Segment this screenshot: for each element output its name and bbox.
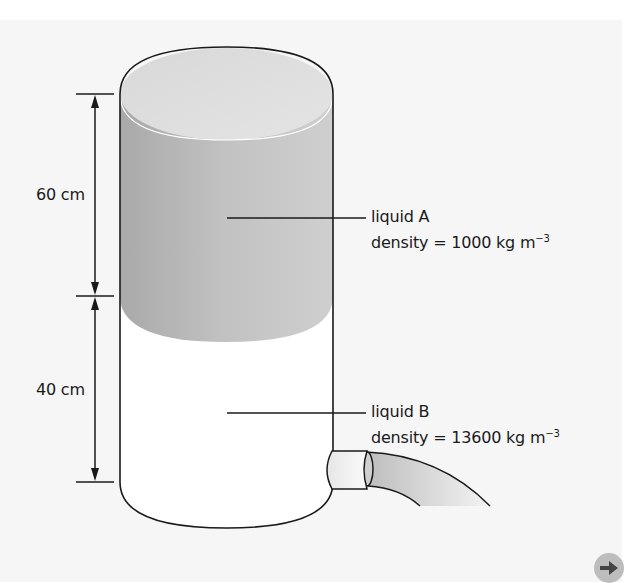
liquid-b-density-text: density = 13600 kg m: [371, 428, 545, 447]
liquid-a-density-exponent: −3: [535, 233, 549, 244]
next-button[interactable]: [594, 553, 624, 583]
outlet-hose: [366, 452, 490, 506]
liquid-a-density: density = 1000 kg m−3: [371, 234, 550, 251]
liquid-b-density: density = 13600 kg m−3: [371, 429, 560, 446]
arrow-right-icon: [599, 560, 619, 576]
dimension-60cm-label: 60 cm: [36, 187, 85, 203]
liquid-b-name: liquid B: [371, 404, 429, 420]
liquid-a-top-surface: [120, 48, 333, 140]
liquid-a-name: liquid A: [371, 209, 429, 225]
outlet-pipe: [327, 451, 367, 489]
liquid-b-density-exponent: −3: [545, 428, 559, 439]
liquid-a-density-text: density = 1000 kg m: [371, 233, 535, 252]
dimension-40cm-label: 40 cm: [36, 382, 85, 398]
